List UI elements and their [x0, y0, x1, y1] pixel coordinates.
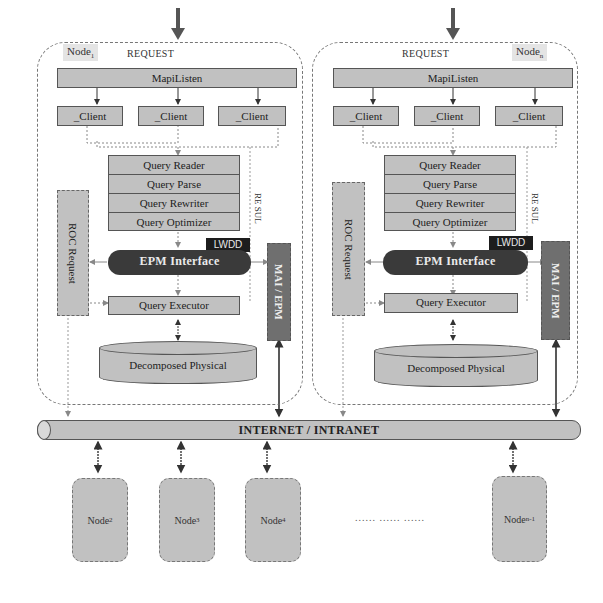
- network-bus-endcap: [37, 420, 51, 440]
- node-n-label-text: Node: [516, 45, 540, 57]
- node-n-lwdd-badge: LWDD: [489, 236, 533, 250]
- node-n-epm-interface[interactable]: EPM Interface: [383, 250, 528, 275]
- node-1-resul-label: RE SUL: [253, 193, 263, 224]
- remote-node-2[interactable]: Node2: [72, 478, 128, 562]
- remote-node-4[interactable]: Node4: [245, 478, 301, 562]
- node-n-request-label: REQUEST: [402, 48, 449, 59]
- remote-node-n-1[interactable]: Noden-1: [492, 476, 547, 562]
- node-n-resul-label: RE SUL: [530, 193, 540, 224]
- node-1-client-1[interactable]: _Client: [57, 106, 123, 126]
- node-n-mai-epm[interactable]: MAI / EPM: [541, 241, 570, 340]
- node-1-request-label: REQUEST: [127, 48, 174, 59]
- node-n-client-1[interactable]: _Client: [333, 106, 399, 126]
- network-bus[interactable]: INTERNET / INTRANET: [37, 420, 581, 440]
- node-n-query-executor[interactable]: Query Executor: [384, 293, 518, 313]
- node-n-query-optimizer[interactable]: Query Optimizer: [385, 213, 515, 231]
- node-n-query-rewriter[interactable]: Query Rewriter: [385, 194, 515, 213]
- node-1-client-3[interactable]: _Client: [218, 106, 286, 126]
- node-n-query-reader[interactable]: Query Reader: [385, 156, 515, 175]
- node-1-storage-top: [99, 341, 257, 355]
- node-1-roc-request[interactable]: ROC Request: [57, 190, 89, 316]
- node-n-client-2[interactable]: _Client: [414, 106, 480, 126]
- node-1-maplisten[interactable]: MapiListen: [57, 68, 297, 88]
- node-n-query-parse[interactable]: Query Parse: [385, 175, 515, 194]
- node-n-maplisten[interactable]: MapiListen: [333, 68, 573, 88]
- node-1-query-reader[interactable]: Query Reader: [109, 156, 239, 175]
- node-n-mai-label: MAI / EPM: [542, 242, 569, 339]
- remote-node-4-label: Node: [260, 515, 282, 526]
- remote-node-2-sub: 2: [109, 516, 113, 524]
- node-1-epm-interface[interactable]: EPM Interface: [108, 250, 251, 275]
- node-1-roc-label: ROC Request: [58, 191, 88, 315]
- node-1-client-2[interactable]: _Client: [138, 106, 204, 126]
- node-1-label-text: Node: [67, 45, 91, 57]
- remote-node-2-label: Node: [87, 515, 109, 526]
- node-1-label-sub: 1: [91, 52, 95, 60]
- node-n-label: Noden: [512, 44, 547, 61]
- node-1-label: Node1: [63, 44, 98, 61]
- node-1-mai-epm[interactable]: MAI / EPM: [267, 243, 291, 341]
- node-n-query-stack: Query Reader Query Parse Query Rewriter …: [384, 155, 516, 231]
- remote-node-n-1-label: Node: [504, 514, 526, 525]
- node-n-storage-top: [374, 344, 538, 358]
- network-bus-label: INTERNET / INTRANET: [38, 421, 580, 439]
- node-n-label-sub: n: [540, 52, 544, 60]
- node-1-query-optimizer[interactable]: Query Optimizer: [109, 213, 239, 231]
- node-1-query-executor[interactable]: Query Executor: [108, 296, 240, 315]
- node-1-query-stack: Query Reader Query Parse Query Rewriter …: [108, 155, 240, 231]
- node-1-query-parse[interactable]: Query Parse: [109, 175, 239, 194]
- remote-node-3[interactable]: Node3: [159, 478, 215, 562]
- remote-node-n-1-sub: n-1: [526, 515, 535, 523]
- remote-node-4-sub: 4: [282, 516, 286, 524]
- node-1-mai-label: MAI / EPM: [268, 244, 290, 340]
- remote-node-3-label: Node: [174, 515, 196, 526]
- more-nodes-ellipsis: ...... ...... ......: [355, 512, 425, 523]
- node-n-roc-label: ROC Request: [333, 183, 364, 315]
- node-1-query-rewriter[interactable]: Query Rewriter: [109, 194, 239, 213]
- node-n-client-3[interactable]: _Client: [495, 106, 563, 126]
- node-n-roc-request[interactable]: ROC Request: [332, 182, 365, 316]
- remote-node-3-sub: 3: [196, 516, 200, 524]
